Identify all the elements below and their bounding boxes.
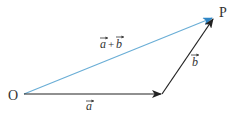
vector-label-a: a [86,99,92,113]
vector-b-line [162,19,213,94]
sum-label-b: b [116,37,122,51]
point-label-O: O [8,88,18,103]
sum-label-a: a [100,37,106,51]
vector-label-b: b [192,55,198,69]
label-a-plus-b: a + b [100,36,124,51]
label-a: a [86,99,94,113]
label-b: b [191,54,199,69]
vector-a-plus-b-line [24,18,212,94]
sum-label-plus: + [108,38,114,50]
point-label-P: P [219,5,227,20]
vector-diagram: O P a + b b a [0,0,240,113]
